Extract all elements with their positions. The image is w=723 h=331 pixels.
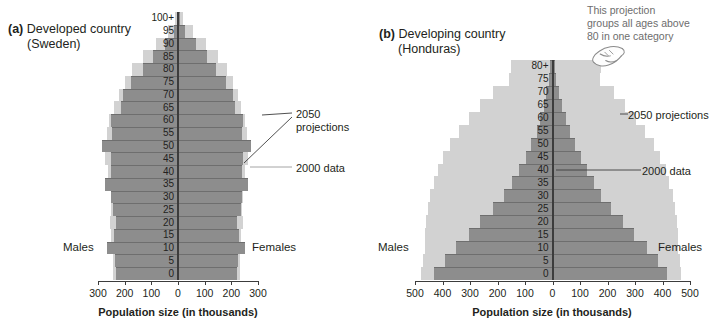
age-label-40: 40	[519, 165, 549, 175]
x-tick-label-sweden-200-5: 200	[216, 288, 246, 299]
age-label-55: 55	[144, 128, 174, 138]
x-tick-label-honduras-100-4: 100	[510, 288, 540, 299]
age-label-15: 15	[519, 230, 549, 240]
x-tick-honduras-6	[580, 281, 581, 285]
bar-2000-females-age-20	[178, 216, 237, 229]
callout-text-line2: groups all ages above	[587, 17, 690, 30]
x-tick-honduras-8	[635, 281, 636, 285]
age-label-45: 45	[144, 154, 174, 164]
x-tick-label-honduras-500-10: 500	[675, 288, 705, 299]
age-label-80+: 80+	[519, 61, 549, 71]
bar-2000-females-age-10	[178, 242, 245, 255]
age-label-50: 50	[144, 141, 174, 151]
age-label-75: 75	[144, 77, 174, 87]
bar-2000-females-age-60	[553, 112, 566, 125]
age-label-100+: 100+	[144, 13, 174, 23]
x-tick-label-honduras-200-7: 200	[593, 288, 623, 299]
bar-2000-females-age-5	[553, 254, 658, 267]
age-label-20: 20	[519, 217, 549, 227]
bar-2000-females-age-30	[553, 189, 602, 202]
annotation-2050-projections-honduras: 2050 projections	[628, 109, 709, 122]
panel-b-honduras: (b) Developing country (Honduras) 500400…	[361, 0, 723, 331]
bar-2000-females-age-15	[178, 229, 239, 242]
age-label-10: 10	[519, 243, 549, 253]
age-label-65: 65	[519, 100, 549, 110]
x-tick-honduras-3	[498, 281, 499, 285]
callout-text-line3: 80 in one category	[587, 30, 673, 43]
x-tick-label-honduras-100-6: 100	[565, 288, 595, 299]
x-tick-label-honduras-400-9: 400	[648, 288, 678, 299]
x-tick-label-sweden-300-6: 300	[243, 288, 273, 299]
bar-2000-females-age-85	[178, 50, 207, 63]
bar-2050-females-age-70	[553, 86, 614, 99]
age-label-0: 0	[144, 269, 174, 279]
annotation-2050-projections-sweden-line2: projections	[296, 121, 349, 134]
age-label-70: 70	[144, 90, 174, 100]
center-axis-sweden	[177, 12, 179, 280]
age-label-30: 30	[519, 191, 549, 201]
x-tick-sweden-6	[258, 281, 259, 285]
bar-2000-females-age-10	[553, 241, 647, 254]
age-label-75: 75	[519, 74, 549, 84]
bar-2000-females-age-50	[553, 138, 576, 151]
x-tick-label-honduras-400-1: 400	[428, 288, 458, 299]
age-label-70: 70	[519, 87, 549, 97]
age-label-65: 65	[144, 103, 174, 113]
bar-2000-females-age-25	[553, 202, 611, 215]
age-label-20: 20	[144, 218, 174, 228]
bar-2000-females-age-30	[178, 191, 242, 204]
bar-2000-females-age-45	[178, 152, 243, 165]
panel-b-tag: (b)	[379, 27, 395, 41]
x-tick-label-sweden-100-4: 100	[190, 288, 220, 299]
x-tick-label-sweden-0-3: 0	[163, 288, 193, 299]
x-tick-honduras-5	[553, 281, 554, 285]
age-label-95: 95	[144, 26, 174, 36]
annotation-2050-projections-sweden-line1: 2050	[296, 108, 320, 121]
bar-2000-females-age-35	[178, 178, 248, 191]
x-tick-sweden-1	[125, 281, 126, 285]
bar-2000-females-age-25	[178, 203, 241, 216]
x-tick-sweden-4	[205, 281, 206, 285]
age-label-0: 0	[519, 269, 549, 279]
males-label-honduras: Males	[378, 241, 409, 253]
males-label-sweden: Males	[63, 241, 94, 253]
age-label-45: 45	[519, 152, 549, 162]
age-label-25: 25	[144, 205, 174, 215]
bar-2000-females-age-15	[553, 228, 635, 241]
bar-2000-females-age-75	[178, 76, 226, 89]
age-label-15: 15	[144, 230, 174, 240]
x-tick-honduras-2	[470, 281, 471, 285]
age-label-60: 60	[519, 113, 549, 123]
x-tick-sweden-2	[151, 281, 152, 285]
x-tick-honduras-10	[690, 281, 691, 285]
bar-2000-females-age-55	[553, 125, 570, 138]
age-label-55: 55	[519, 126, 549, 136]
panel-b-title: (b) Developing country (Honduras)	[379, 27, 505, 57]
x-axis-title-honduras: Population size (in thousands)	[452, 306, 652, 318]
bar-2050-females-age-75	[553, 73, 600, 86]
age-label-85: 85	[144, 52, 174, 62]
callout-text-line1: This projection	[587, 4, 655, 17]
x-tick-label-sweden-200-1: 200	[110, 288, 140, 299]
x-tick-label-sweden-100-2: 100	[136, 288, 166, 299]
x-tick-honduras-9	[663, 281, 664, 285]
x-tick-honduras-7	[608, 281, 609, 285]
age-label-25: 25	[519, 204, 549, 214]
age-label-60: 60	[144, 115, 174, 125]
annotation-2000-data-sweden: 2000 data	[296, 162, 345, 175]
x-tick-honduras-0	[415, 281, 416, 285]
x-tick-honduras-4	[525, 281, 526, 285]
age-label-35: 35	[144, 179, 174, 189]
panel-b-title-line1: Developing country	[398, 27, 505, 41]
x-tick-label-honduras-500-0: 500	[400, 288, 430, 299]
females-label-honduras: Females	[658, 241, 702, 253]
age-label-35: 35	[519, 178, 549, 188]
bar-2000-females-age-65	[178, 101, 235, 114]
bar-2050-females-age-80+	[553, 60, 602, 73]
bar-2000-females-age-0	[553, 267, 668, 280]
x-tick-sweden-5	[231, 281, 232, 285]
age-label-50: 50	[519, 139, 549, 149]
females-label-sweden: Females	[252, 241, 296, 253]
bar-2000-females-age-70	[178, 89, 233, 102]
center-axis-honduras	[552, 60, 554, 280]
